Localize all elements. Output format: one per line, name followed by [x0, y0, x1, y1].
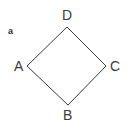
vertex-label-b: B — [63, 108, 72, 122]
figure-part-label: a — [8, 27, 13, 36]
vertex-label-c: C — [110, 59, 120, 73]
rhombus-shape — [27, 27, 106, 105]
vertex-label-a: A — [14, 59, 23, 73]
vertex-label-d: D — [62, 8, 72, 22]
geometry-figure-canvas: D C B A a — [0, 0, 128, 125]
